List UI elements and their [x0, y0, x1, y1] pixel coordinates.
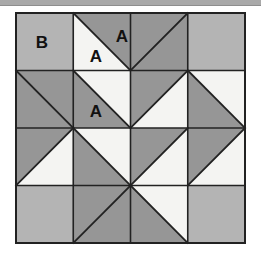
quilt-patch-solid-r0c3: [188, 13, 245, 71]
figure-root: BAAA: [0, 0, 261, 256]
quilt-patch-solid-r3c0: [16, 186, 73, 244]
quilt-patch-solid-r3c3: [188, 186, 245, 244]
patch-label-a-r0c1: A: [90, 47, 102, 66]
quilt-block-diagram: BAAA: [0, 0, 261, 256]
patch-label-a-r0c2: A: [116, 27, 128, 46]
patch-label-b-r0c0: B: [36, 33, 48, 52]
patch-label-a-r1c1: A: [90, 102, 102, 121]
